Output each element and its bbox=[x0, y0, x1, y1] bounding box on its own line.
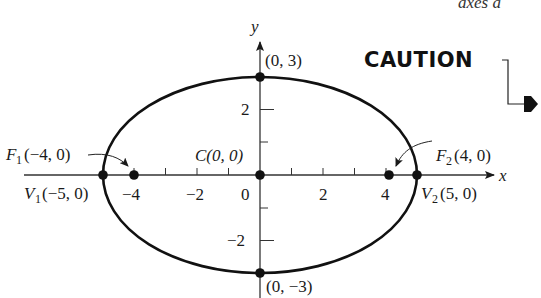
point-top-vertex bbox=[255, 72, 265, 82]
svg-text:(4, 0): (4, 0) bbox=[454, 146, 491, 165]
caution-arrow-icon bbox=[524, 96, 538, 112]
point-center bbox=[255, 170, 265, 180]
y-tick-label-neg2: −2 bbox=[227, 231, 245, 250]
svg-text:1: 1 bbox=[16, 153, 22, 167]
ellipse-diagram: axes a x y −4 −2 0 2 4 2 −2 (0, 3) (0, −… bbox=[0, 0, 541, 298]
label-center: C(0, 0) bbox=[195, 146, 244, 165]
label-v1: V 1 (−5, 0) bbox=[24, 184, 88, 206]
label-v2: V 2 (5, 0) bbox=[421, 184, 477, 206]
svg-text:1: 1 bbox=[35, 192, 41, 206]
svg-text:2: 2 bbox=[446, 154, 452, 168]
y-tick-label-2: 2 bbox=[241, 100, 250, 119]
svg-text:(5, 0): (5, 0) bbox=[440, 184, 477, 203]
svg-text:(−5, 0): (−5, 0) bbox=[42, 184, 88, 203]
arrow-f1 bbox=[88, 154, 128, 166]
point-f1 bbox=[129, 170, 139, 180]
point-f2 bbox=[384, 170, 394, 180]
x-axis-label: x bbox=[498, 166, 507, 185]
x-tick-label-neg2: −2 bbox=[186, 185, 204, 204]
point-v1 bbox=[98, 170, 108, 180]
point-v2 bbox=[412, 170, 422, 180]
y-axis-label: y bbox=[249, 17, 259, 36]
point-bottom-vertex bbox=[255, 268, 265, 278]
corner-text: axes a bbox=[458, 0, 501, 12]
caution-bracket bbox=[502, 60, 524, 104]
svg-text:2: 2 bbox=[432, 192, 438, 206]
x-tick-label-0: 0 bbox=[241, 185, 250, 204]
svg-text:(−4, 0): (−4, 0) bbox=[24, 145, 70, 164]
label-top-vertex: (0, 3) bbox=[265, 51, 302, 70]
x-tick-label-2: 2 bbox=[319, 185, 328, 204]
label-f2: F 2 (4, 0) bbox=[435, 146, 491, 168]
x-tick-label-4: 4 bbox=[381, 185, 390, 204]
caution-label: CAUTION bbox=[364, 48, 473, 72]
label-bottom-vertex: (0, −3) bbox=[266, 277, 312, 296]
label-f1: F 1 (−4, 0) bbox=[5, 145, 70, 167]
x-tick-label-neg4: −4 bbox=[122, 185, 141, 204]
